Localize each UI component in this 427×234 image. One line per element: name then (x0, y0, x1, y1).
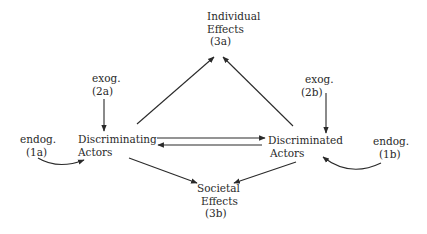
node-individual-effects-line1: Individual (207, 10, 260, 23)
node-discriminating-actors: Discriminating Actors (78, 133, 157, 158)
node-endog-1b-id: (1b) (373, 148, 409, 161)
node-discriminating-actors-line1: Discriminating (78, 133, 157, 146)
node-endog-1b-line1: endog. (373, 135, 409, 148)
node-exog-2b: exog. (2b) (301, 73, 334, 98)
node-discriminated-actors: Discriminated Actors (268, 134, 343, 159)
node-exog-2b-line1: exog. (301, 73, 334, 86)
arrow-discriminating-to-societal (129, 158, 197, 183)
node-societal-effects-line2: Effects (197, 195, 240, 208)
node-discriminated-actors-line1: Discriminated (268, 134, 343, 147)
node-exog-2a-id: (2a) (92, 85, 121, 98)
node-endog-1a-line1: endog. (20, 133, 56, 146)
node-endog-1b: endog. (1b) (373, 135, 409, 160)
node-endog-1a-id: (1a) (20, 146, 56, 159)
node-individual-effects: Individual Effects (3a) (207, 10, 260, 48)
diagram-canvas: Individual Effects (3a) exog. (2a) exog.… (0, 0, 427, 234)
node-exog-2a-line1: exog. (92, 72, 121, 85)
node-societal-effects-line1: Societal (197, 182, 240, 195)
node-societal-effects: Societal Effects (3b) (197, 182, 240, 220)
node-individual-effects-line2: Effects (207, 23, 260, 36)
node-societal-effects-id: (3b) (197, 207, 240, 220)
node-discriminating-actors-line2: Actors (78, 146, 157, 159)
node-exog-2a: exog. (2a) (92, 72, 121, 97)
arrow-endog1a-to-discriminating (38, 158, 84, 165)
arrow-discriminated-to-individual (223, 57, 293, 126)
node-individual-effects-id: (3a) (207, 35, 260, 48)
node-endog-1a: endog. (1a) (20, 133, 56, 158)
node-discriminated-actors-line2: Actors (268, 147, 343, 160)
node-exog-2b-id: (2b) (301, 86, 334, 99)
arrow-discriminated-to-societal (234, 162, 296, 183)
arrow-discriminating-to-individual (137, 57, 214, 124)
